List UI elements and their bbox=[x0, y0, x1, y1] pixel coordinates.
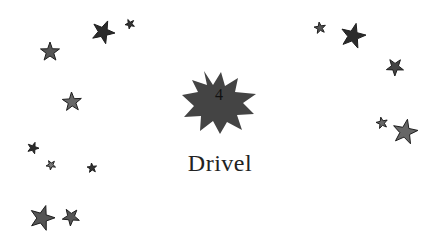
star-icon bbox=[44, 158, 58, 172]
star-icon bbox=[384, 56, 406, 78]
chapter-number: 4 bbox=[180, 86, 258, 104]
star-icon bbox=[27, 203, 57, 233]
star-icon bbox=[89, 18, 117, 46]
star-icon bbox=[38, 40, 62, 64]
star-icon bbox=[85, 161, 99, 175]
star-icon bbox=[123, 17, 137, 31]
star-icon bbox=[25, 140, 41, 156]
star-icon bbox=[60, 206, 82, 228]
star-icon bbox=[374, 115, 390, 131]
chapter-title: Drivel bbox=[150, 150, 290, 177]
star-icon bbox=[60, 90, 84, 114]
star-icon bbox=[338, 21, 368, 51]
star-icon bbox=[390, 117, 420, 147]
star-icon bbox=[312, 20, 328, 36]
